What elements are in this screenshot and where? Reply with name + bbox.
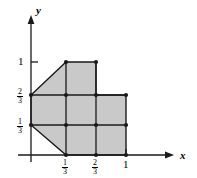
lattice-dot <box>94 60 98 64</box>
lattice-dot <box>94 93 98 97</box>
lattice-dot <box>29 93 33 97</box>
x-tick-label-one-third: 1 3 <box>62 159 68 177</box>
fraction-denominator: 3 <box>17 126 23 135</box>
figure-root: y x 1 2 3 1 3 1 3 2 3 1 <box>0 0 197 178</box>
fraction-numerator: 1 <box>17 118 23 126</box>
lattice-dot <box>64 60 68 64</box>
lattice-dot <box>64 93 68 97</box>
lattice-dot <box>124 93 128 97</box>
y-tick-label-two-thirds: 2 3 <box>17 88 23 106</box>
fraction-denominator: 3 <box>92 167 98 176</box>
x-tick-label-two-thirds: 2 3 <box>92 159 98 177</box>
lattice-dot <box>94 123 98 127</box>
y-tick-label-1: 1 <box>18 56 24 67</box>
fraction-numerator: 2 <box>17 88 23 96</box>
lattice-dot <box>124 123 128 127</box>
fraction-numerator: 2 <box>92 159 98 167</box>
lattice-dot <box>124 153 128 157</box>
shaded-region <box>31 62 126 155</box>
x-tick-label-1: 1 <box>123 159 129 170</box>
y-axis-arrow <box>28 15 35 24</box>
fraction-denominator: 3 <box>17 96 23 105</box>
y-axis-label: y <box>36 5 41 16</box>
lattice-dot <box>64 123 68 127</box>
lattice-dot <box>29 123 33 127</box>
fraction-numerator: 1 <box>62 159 68 167</box>
y-tick-label-one-third: 1 3 <box>17 118 23 136</box>
x-axis-label: x <box>180 150 186 161</box>
lattice-dot <box>64 153 68 157</box>
x-axis-arrow <box>165 152 174 159</box>
fraction-denominator: 3 <box>62 167 68 176</box>
coordinate-plot <box>0 0 197 178</box>
lattice-dot <box>94 153 98 157</box>
